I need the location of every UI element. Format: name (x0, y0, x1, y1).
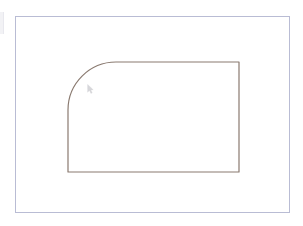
filleted-rectangle-path[interactable] (68, 62, 239, 172)
cursor-arrow-icon (87, 84, 94, 94)
drawing-application (0, 0, 303, 226)
drawing-canvas[interactable] (0, 0, 303, 226)
